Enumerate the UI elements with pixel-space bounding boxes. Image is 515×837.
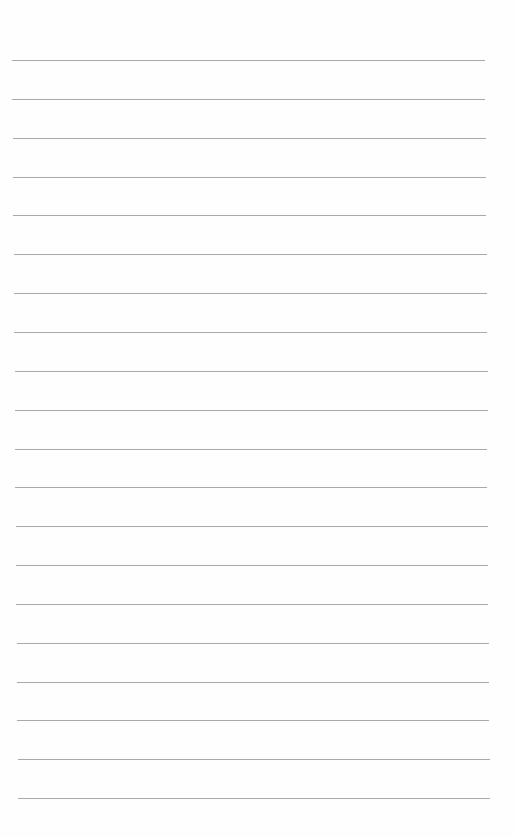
ruled-line: [13, 177, 486, 178]
ruled-line: [18, 798, 490, 799]
ruled-line: [15, 410, 488, 411]
ruled-line: [16, 604, 488, 605]
ruled-line: [14, 293, 487, 294]
ruled-line: [13, 215, 486, 216]
ruled-line: [17, 682, 489, 683]
ruled-line: [12, 60, 485, 61]
ruled-line: [13, 138, 486, 139]
ruled-line: [17, 720, 489, 721]
ruled-line: [14, 332, 487, 333]
lined-page: [0, 0, 515, 837]
ruled-line: [15, 487, 487, 488]
ruled-line: [18, 759, 490, 760]
ruled-line: [16, 565, 488, 566]
ruled-line: [17, 643, 489, 644]
ruled-line: [14, 254, 487, 255]
ruled-line: [15, 371, 488, 372]
ruled-line: [12, 99, 485, 100]
ruled-line: [16, 526, 488, 527]
ruled-line: [15, 449, 487, 450]
